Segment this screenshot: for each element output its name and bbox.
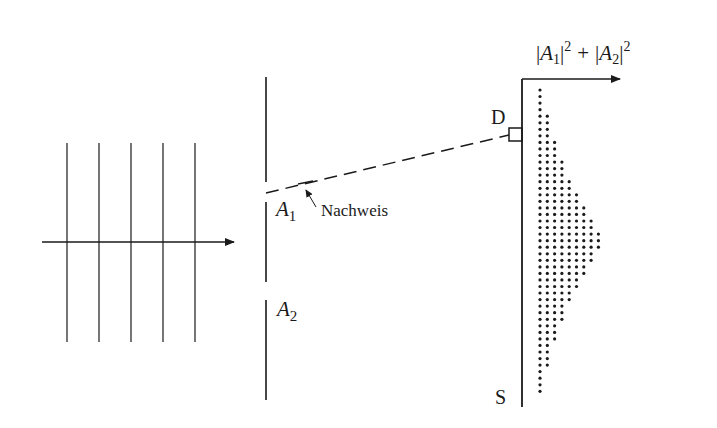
intensity-dot (546, 364, 549, 367)
intensity-formula: |A1|2+|A2|2 (536, 39, 630, 67)
intensity-dot (538, 370, 541, 373)
intensity-dot (546, 239, 549, 242)
intensity-dot (546, 278, 549, 281)
intensity-dot (553, 200, 556, 203)
intensity-dot (538, 233, 541, 236)
intensity-dot (568, 180, 571, 183)
intensity-dot (546, 344, 549, 347)
intensity-dot (553, 167, 556, 170)
intensity-dot (553, 193, 556, 196)
intensity-dot (553, 187, 556, 190)
intensity-dot (560, 200, 563, 203)
intensity-dot (575, 272, 578, 275)
intensity-dot (538, 213, 541, 216)
intensity-dot (546, 318, 549, 321)
intensity-dot (575, 206, 578, 209)
intensity-dot (568, 193, 571, 196)
intensity-dot (538, 272, 541, 275)
intensity-dot (560, 174, 563, 177)
intensity-dot (538, 357, 541, 360)
intensity-dot (560, 278, 563, 281)
intensity-dot (575, 259, 578, 262)
intensity-dot (582, 226, 585, 229)
intensity-dot (582, 206, 585, 209)
intensity-dot (538, 102, 541, 105)
intensity-dot (546, 128, 549, 131)
intensity-dot (538, 167, 541, 170)
intensity-dot (597, 246, 600, 249)
intensity-dot (568, 265, 571, 268)
intensity-dot (590, 239, 593, 242)
detection-path-dashed (266, 135, 509, 193)
intensity-dot (538, 305, 541, 308)
intensity-dot-pattern (538, 88, 600, 393)
intensity-dot (590, 233, 593, 236)
intensity-dot (538, 344, 541, 347)
intensity-dot (538, 377, 541, 380)
intensity-dot (575, 193, 578, 196)
intensity-dot (546, 167, 549, 170)
intensity-dot (538, 200, 541, 203)
intensity-dot (590, 259, 593, 262)
intensity-dot (582, 246, 585, 249)
intensity-dot (538, 154, 541, 157)
intensity-dot (568, 298, 571, 301)
intensity-dot (546, 285, 549, 288)
intensity-dot (560, 311, 563, 314)
intensity-dot (575, 278, 578, 281)
intensity-dot (568, 259, 571, 262)
intensity-dot (582, 239, 585, 242)
intensity-dot (546, 154, 549, 157)
intensity-dot (538, 219, 541, 222)
intensity-dot (553, 252, 556, 255)
detection-label: Nachweis (321, 201, 388, 220)
intensity-dot (575, 219, 578, 222)
intensity-dot (575, 285, 578, 288)
intensity-dot (560, 305, 563, 308)
intensity-dot (582, 265, 585, 268)
intensity-dot (597, 239, 600, 242)
intensity-dot (575, 233, 578, 236)
intensity-dot (560, 285, 563, 288)
intensity-dot (538, 115, 541, 118)
intensity-dot (582, 213, 585, 216)
intensity-dot (560, 206, 563, 209)
intensity-dot (538, 350, 541, 353)
intensity-dot (560, 239, 563, 242)
intensity-dot (590, 246, 593, 249)
intensity-dot (568, 285, 571, 288)
intensity-dot (568, 233, 571, 236)
intensity-dot (546, 161, 549, 164)
intensity-dot (546, 350, 549, 353)
intensity-dot (553, 311, 556, 314)
intensity-dot (538, 291, 541, 294)
intensity-dot (538, 246, 541, 249)
intensity-dot (553, 278, 556, 281)
intensity-dot (553, 272, 556, 275)
intensity-dot (546, 187, 549, 190)
intensity-dot (568, 272, 571, 275)
intensity-dot (568, 219, 571, 222)
intensity-dot (553, 305, 556, 308)
slit1-label: A1 (274, 197, 296, 224)
intensity-dot (560, 246, 563, 249)
intensity-dot (568, 226, 571, 229)
intensity-dot (546, 193, 549, 196)
intensity-dot (568, 291, 571, 294)
intensity-dot (546, 291, 549, 294)
intensity-dot (546, 121, 549, 124)
intensity-dot (560, 259, 563, 262)
intensity-dot (538, 226, 541, 229)
intensity-dot (538, 364, 541, 367)
intensity-dot (546, 298, 549, 301)
intensity-dot (553, 331, 556, 334)
intensity-dot (560, 167, 563, 170)
intensity-dot (546, 324, 549, 327)
intensity-dot (553, 337, 556, 340)
intensity-dot (560, 193, 563, 196)
intensity-dot (597, 233, 600, 236)
intensity-dot (546, 252, 549, 255)
intensity-dot (560, 161, 563, 164)
intensity-dot (568, 206, 571, 209)
detector-label: D (491, 106, 505, 128)
